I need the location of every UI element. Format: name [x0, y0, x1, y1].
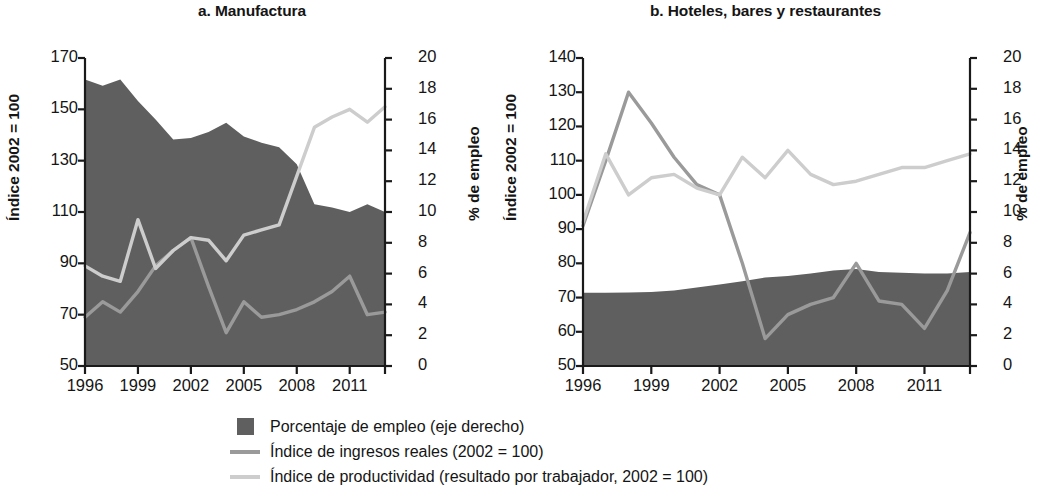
y-tick-label-right: 12: [418, 170, 458, 189]
y-tick-label-left: 50: [516, 355, 576, 374]
y-tick-label-left: 170: [18, 47, 78, 66]
chart-panel-hoteles: b. Hoteles, bares y restaurantes 5060708…: [493, 0, 1038, 400]
y-tick-label-left: 110: [516, 150, 576, 169]
figure-root: a. Manufactura 5070901101301501700246810…: [0, 0, 1038, 498]
y-tick-label-right: 16: [1003, 109, 1038, 128]
y-tick-label-right: 8: [418, 232, 458, 251]
y-tick-label-right: 0: [1003, 355, 1038, 374]
y-tick-label-left: 130: [18, 150, 78, 169]
y-tick-label-right: 4: [1003, 293, 1038, 312]
y-tick-label-left: 60: [516, 321, 576, 340]
line-productivity: [583, 150, 970, 222]
y-tick-label-right: 18: [418, 78, 458, 97]
y-tick-label-left: 120: [516, 115, 576, 134]
y-tick-label-left: 70: [18, 304, 78, 323]
y-tick-label-right: 2: [418, 324, 458, 343]
y-tick-label-left: 150: [18, 98, 78, 117]
legend-label-empleo: Porcentaje de empleo (eje derecho): [262, 418, 524, 436]
legend-label-ingresos: Índice de ingresos reales (2002 = 100): [262, 443, 544, 461]
y-tick-label-right: 14: [418, 139, 458, 158]
area-employment-share: [85, 80, 385, 366]
y-tick-label-right: 4: [418, 293, 458, 312]
y-tick-label-left: 50: [18, 355, 78, 374]
legend-swatch-productivity-line-icon: [228, 464, 262, 489]
y-tick-label-left: 90: [516, 218, 576, 237]
y-tick-label-left: 130: [516, 81, 576, 100]
y-tick-label-right: 8: [1003, 232, 1038, 251]
legend-swatch-area-icon: [228, 414, 262, 439]
y-tick-label-right: 16: [418, 109, 458, 128]
chart-panel-manufactura: a. Manufactura 5070901101301501700246810…: [0, 0, 500, 400]
y-tick-label-left: 100: [516, 184, 576, 203]
y-tick-label-right: 0: [418, 355, 458, 374]
y-tick-label-left: 140: [516, 47, 576, 66]
legend-label-productividad: Índice de productividad (resultado por t…: [262, 468, 708, 486]
legend-item-ingresos: Índice de ingresos reales (2002 = 100): [228, 439, 928, 464]
y-tick-label-right: 6: [1003, 263, 1038, 282]
legend-swatch-income-line-icon: [228, 439, 262, 464]
chart-legend: Porcentaje de empleo (eje derecho) Índic…: [228, 414, 928, 489]
x-tick-label: 2011: [310, 376, 390, 395]
y-tick-label-right: 20: [1003, 47, 1038, 66]
y-tick-label-right: 20: [418, 47, 458, 66]
x-tick-label: 2011: [884, 376, 964, 395]
y-tick-label-left: 70: [516, 287, 576, 306]
y-tick-label-left: 110: [18, 201, 78, 220]
y-tick-label-right: 2: [1003, 324, 1038, 343]
y-tick-label-right: 10: [418, 201, 458, 220]
y-tick-label-right: 18: [1003, 78, 1038, 97]
y-tick-label-left: 90: [18, 252, 78, 271]
legend-item-empleo: Porcentaje de empleo (eje derecho): [228, 414, 928, 439]
y-tick-label-right: 6: [418, 263, 458, 282]
y-tick-label-left: 80: [516, 252, 576, 271]
legend-item-productividad: Índice de productividad (resultado por t…: [228, 464, 928, 489]
